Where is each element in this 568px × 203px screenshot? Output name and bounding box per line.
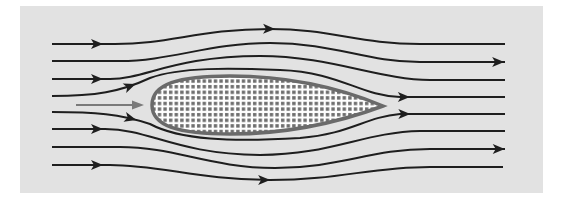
streamline-diagram xyxy=(0,0,568,203)
